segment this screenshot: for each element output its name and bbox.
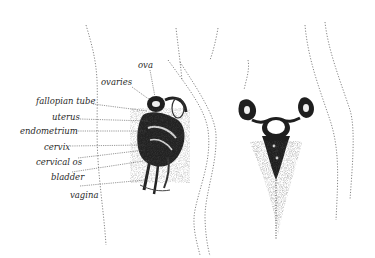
label-fallopian-tube: fallopian tube: [36, 97, 96, 106]
label-cervical-os: cervical os: [36, 158, 82, 167]
label-ovaries: ovaries: [101, 78, 132, 87]
anatomy-diagram: ova ovaries fallopian tube uterus endome…: [0, 0, 375, 258]
front-view-organs: [238, 97, 314, 240]
label-vagina: vagina: [70, 191, 99, 200]
label-endometrium: endometrium: [20, 127, 78, 136]
label-uterus: uterus: [52, 113, 80, 122]
label-bladder: bladder: [51, 173, 84, 182]
label-ova: ova: [138, 61, 153, 70]
label-cervix: cervix: [44, 143, 70, 152]
